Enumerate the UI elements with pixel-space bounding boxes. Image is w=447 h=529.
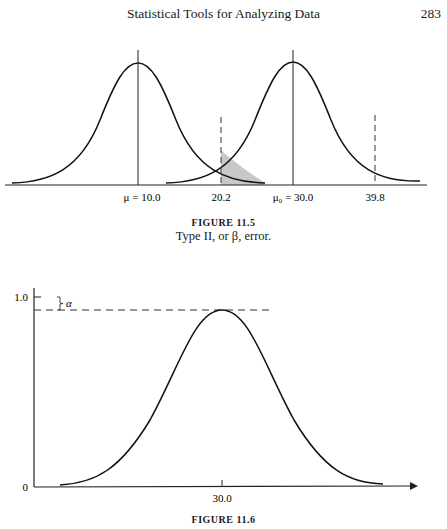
alpha-label: α [66,297,72,309]
oc-curve [60,310,383,485]
critical-low-label: 20.2 [211,191,230,203]
y-label-0: 0 [23,481,29,493]
alpha-brace [57,297,63,310]
mu-label: μ = 10.0 [124,191,161,203]
x-axis-arrow-icon [410,482,418,490]
x-axis [34,486,412,487]
figure-11-5-plot: μ = 10.0 20.2 μ₀ = 30.0 39.8 [0,0,447,210]
mu0-label: μ₀ = 30.0 [273,191,314,203]
figure-11-5-caption-text: Type II, or β, error. [0,229,447,244]
x-label-30: 30.0 [212,492,232,504]
figure-11-5-caption-title: FIGURE 11.5 [0,217,447,228]
figure-11-6-caption-title: FIGURE 11.6 [0,514,447,525]
beta-shaded-region [221,150,265,185]
y-label-1: 1.0 [14,291,28,303]
critical-high-label: 39.8 [365,191,385,203]
